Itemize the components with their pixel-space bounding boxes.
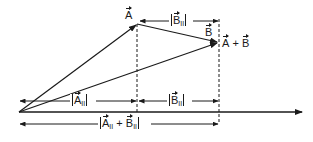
abs-bar-left bbox=[169, 94, 170, 106]
abs-bar-right bbox=[138, 117, 139, 129]
label-b-par-bottom: BII bbox=[167, 94, 186, 107]
label-b-par-top-letter: B bbox=[173, 15, 180, 26]
label-a-par: AII bbox=[70, 94, 89, 107]
abs-bar-right bbox=[183, 94, 184, 106]
label-sum-par-b: B bbox=[126, 118, 133, 129]
label-a-plus-b: A + B bbox=[221, 38, 250, 49]
abs-bar-left bbox=[72, 94, 73, 106]
label-b-letter: B bbox=[205, 27, 212, 38]
label-a-par-sub: II bbox=[81, 100, 85, 107]
label-a-plus-b-plus: + bbox=[232, 37, 238, 49]
label-sum-par-plus: + bbox=[116, 117, 122, 129]
label-b-par-bottom-sub: II bbox=[178, 100, 182, 107]
vector-diagram: A B A + B BII AII BII AII + BII bbox=[0, 0, 313, 142]
label-sum-par-a: A bbox=[102, 118, 109, 129]
label-a-plus-b-a: A bbox=[222, 38, 229, 49]
label-a-letter: A bbox=[125, 10, 132, 21]
label-b-par-top-sub: II bbox=[180, 20, 184, 27]
label-b-par-bottom-letter: B bbox=[171, 95, 178, 106]
abs-bar-right bbox=[86, 94, 87, 106]
label-sum-par-sub-b: II bbox=[133, 123, 137, 130]
vector-a-plus-b bbox=[19, 43, 217, 112]
label-a-plus-b-b: B bbox=[242, 38, 249, 49]
abs-bar-left bbox=[171, 14, 172, 26]
abs-bar-left bbox=[100, 117, 101, 129]
diagram-canvas bbox=[0, 0, 313, 142]
label-sum-par: AII + BII bbox=[98, 117, 141, 130]
label-a: A bbox=[124, 10, 133, 21]
label-sum-par-sub-a: II bbox=[109, 123, 113, 130]
label-b-par-top: BII bbox=[169, 14, 188, 27]
abs-bar-right bbox=[185, 14, 186, 26]
label-b: B bbox=[204, 27, 213, 38]
label-a-par-letter: A bbox=[74, 95, 81, 106]
